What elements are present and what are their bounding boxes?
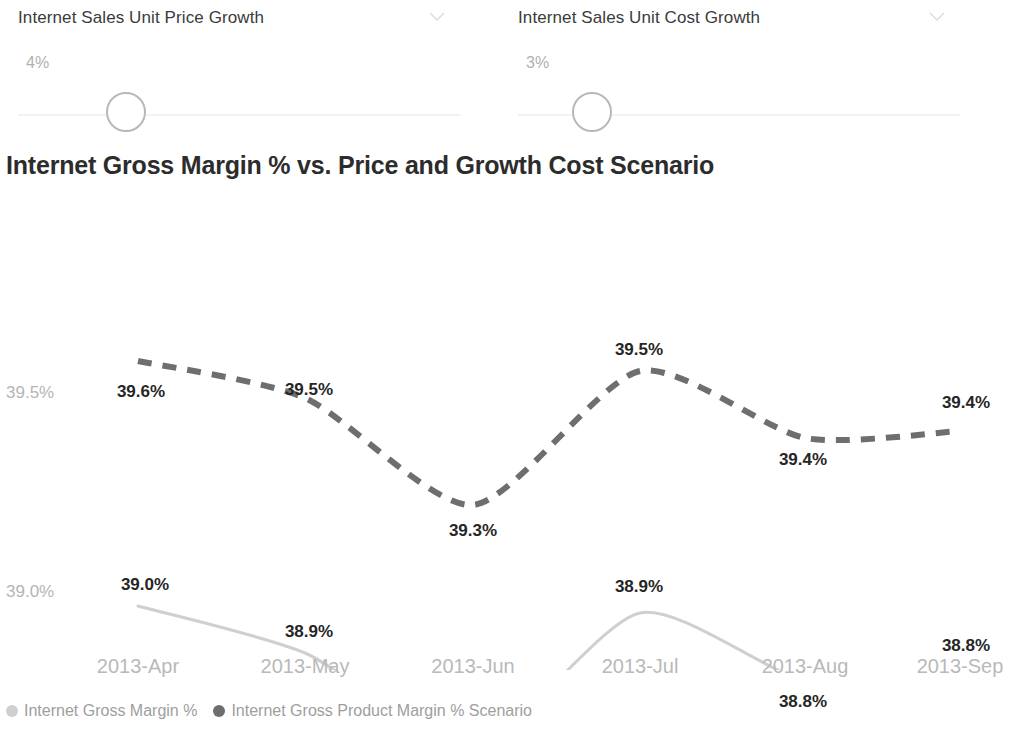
- x-axis-tick-label[interactable]: 2013-Jul: [602, 655, 679, 678]
- x-axis: 2013-Apr2013-May2013-Jun2013-Jul2013-Aug…: [0, 655, 1020, 685]
- chevron-down-icon[interactable]: [428, 10, 446, 24]
- slicer-value: 4%: [26, 54, 49, 72]
- slicer-title: Internet Sales Unit Price Growth: [18, 8, 264, 28]
- legend-label: Internet Gross Product Margin % Scenario: [231, 702, 532, 720]
- data-point-label: 39.5%: [615, 340, 663, 360]
- data-point-label: 38.8%: [942, 636, 990, 656]
- line-chart-card: Internet Gross Margin % vs. Price and Gr…: [0, 140, 1020, 730]
- y-axis-tick-label: 39.0%: [6, 582, 54, 602]
- slicer-track[interactable]: [18, 114, 460, 116]
- chart-legend: Internet Gross Margin %Internet Gross Pr…: [6, 702, 532, 720]
- x-axis-tick-label[interactable]: 2013-Apr: [97, 655, 179, 678]
- slicer-title: Internet Sales Unit Cost Growth: [518, 8, 760, 28]
- data-point-label: 39.4%: [779, 450, 827, 470]
- slicer-internet-sales-unit-cost-growth[interactable]: Internet Sales Unit Cost Growth 3%: [500, 0, 1000, 140]
- data-point-label: 39.0%: [121, 575, 169, 595]
- legend-item[interactable]: Internet Gross Margin %: [6, 702, 197, 720]
- legend-label: Internet Gross Margin %: [24, 702, 197, 720]
- x-axis-tick-label[interactable]: 2013-Aug: [762, 655, 849, 678]
- data-point-label: 39.6%: [117, 382, 165, 402]
- data-point-label: 38.8%: [779, 692, 827, 712]
- data-point-label: 39.4%: [942, 393, 990, 413]
- slicer-handle[interactable]: [572, 92, 612, 132]
- slicer-handle[interactable]: [106, 92, 146, 132]
- legend-item[interactable]: Internet Gross Product Margin % Scenario: [213, 702, 532, 720]
- slicer-value: 3%: [526, 54, 549, 72]
- series-line[interactable]: [138, 361, 960, 505]
- data-point-label: 38.9%: [285, 622, 333, 642]
- x-axis-tick-label[interactable]: 2013-May: [261, 655, 350, 678]
- slicer-internet-sales-unit-price-growth[interactable]: Internet Sales Unit Price Growth 4%: [0, 0, 500, 140]
- x-axis-tick-label[interactable]: 2013-Sep: [917, 655, 1004, 678]
- y-axis-tick-label: 39.5%: [6, 383, 54, 403]
- data-point-label: 38.9%: [615, 577, 663, 597]
- x-axis-tick-label[interactable]: 2013-Jun: [431, 655, 514, 678]
- data-point-label: 39.3%: [449, 521, 497, 541]
- legend-marker-icon: [6, 705, 18, 717]
- chevron-down-icon[interactable]: [928, 10, 946, 24]
- data-point-label: 39.5%: [285, 380, 333, 400]
- legend-marker-icon: [213, 705, 225, 717]
